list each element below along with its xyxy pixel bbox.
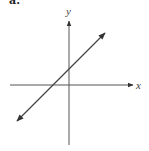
x-axis-label: x [136, 79, 141, 91]
coordinate-figure: a. y x [0, 0, 149, 151]
part-label: a. [9, 0, 20, 7]
graph-line [17, 33, 105, 121]
y-axis-label: y [66, 5, 71, 17]
graph-svg [0, 0, 149, 151]
